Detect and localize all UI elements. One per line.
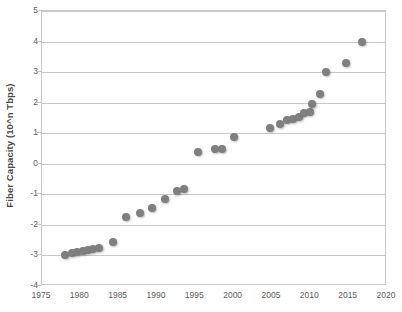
data-point [122, 213, 130, 221]
data-point [161, 195, 169, 203]
data-point [218, 145, 226, 153]
x-axis-tick-label: 1985 [98, 290, 138, 300]
data-point [266, 124, 274, 132]
x-axis-tick-label: 1990 [136, 290, 176, 300]
y-axis-tick-mark [37, 285, 41, 286]
data-point [306, 108, 314, 116]
x-axis-tick-label: 2015 [328, 290, 368, 300]
gridline [42, 225, 385, 226]
data-point [95, 244, 103, 252]
data-point [180, 185, 188, 193]
x-axis-tick-label: 2000 [213, 290, 253, 300]
gridline [42, 103, 385, 104]
gridline [42, 194, 385, 195]
data-point [358, 38, 366, 46]
gridline [42, 11, 385, 12]
data-point [109, 238, 117, 246]
gridline [42, 72, 385, 73]
data-point [148, 204, 156, 212]
x-axis-tick-label: 2010 [289, 290, 329, 300]
gridline [42, 133, 385, 134]
gridline [42, 42, 385, 43]
gridline [42, 255, 385, 256]
data-point [316, 90, 324, 98]
data-point [322, 68, 330, 76]
x-axis-tick-label: 2005 [251, 290, 291, 300]
y-axis-tick-marks [0, 10, 41, 285]
data-point [194, 148, 202, 156]
data-point [308, 100, 316, 108]
data-point [136, 209, 144, 217]
plot-area [41, 10, 386, 285]
gridline [42, 164, 385, 165]
data-point [342, 59, 350, 67]
x-axis-tick-label: 1980 [59, 290, 99, 300]
x-axis-tick-label: 1995 [174, 290, 214, 300]
x-axis-tick-labels: 1975198019851990199520002005201020152020 [0, 290, 402, 304]
x-axis-tick-label: 2020 [366, 290, 402, 300]
x-axis-tick-label: 1975 [21, 290, 61, 300]
data-point [230, 133, 238, 141]
fiber-capacity-scatter-chart: Fiber Capacity (10^n Tbps) 543210-1-2-3-… [0, 0, 402, 312]
